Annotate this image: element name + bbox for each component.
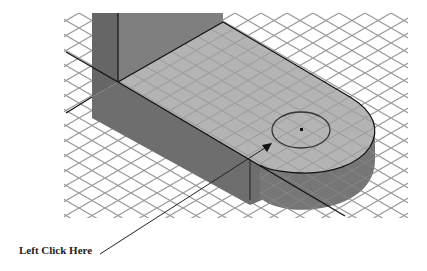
hole-center-point [300,128,303,131]
callout-label: Left Click Here [19,244,92,256]
isometric-model-view [0,0,427,271]
